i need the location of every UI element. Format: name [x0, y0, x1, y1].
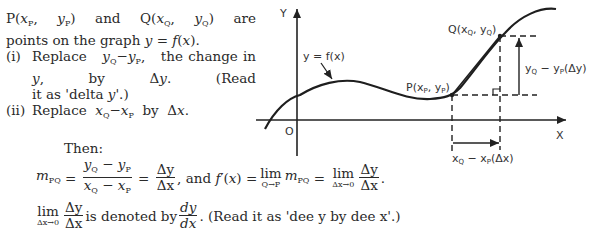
point-q-label: Q(xQ, yQ): [448, 23, 496, 37]
x-axis-label: X: [556, 129, 564, 142]
curve-label-pointer: [321, 63, 332, 79]
point-p-label: P(xP, yP): [406, 81, 450, 95]
graph: Y X O y = f(x) P(xP, yP) Q(xQ, yQ) yQ − …: [0, 0, 593, 238]
y-axis-label: Y: [279, 7, 287, 20]
right-angle-marker: [493, 89, 500, 95]
function-curve: [265, 9, 556, 129]
secant-line: [452, 36, 500, 95]
origin-label: O: [285, 125, 294, 138]
delta-y-label: yQ − yP(Δy): [525, 62, 587, 76]
delta-x-label: xQ − xP(Δx): [452, 152, 514, 166]
curve-label: y = f(x): [303, 50, 345, 63]
